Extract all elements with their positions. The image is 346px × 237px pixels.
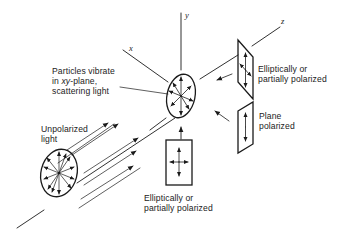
panel-bottom <box>166 140 192 185</box>
particle-ellipse <box>163 72 200 121</box>
unpolarized-label-line1: Unpolarized <box>41 124 88 134</box>
plane-polarized-label-line1: Plane <box>259 111 295 121</box>
axis-label-y: y <box>185 11 189 20</box>
unpolarized-label: Unpolarized light <box>41 124 88 144</box>
top-right-label-line1: Elliptically or <box>258 64 327 74</box>
plane-polarized-label-line2: polarized <box>259 121 295 131</box>
scatter-arrow-from-top-panel <box>217 74 232 80</box>
panel-top-right <box>238 40 253 99</box>
particles-label-line1: Particles vibrate <box>52 66 115 76</box>
x-axis <box>123 50 168 82</box>
panel-plane-polarized <box>238 102 253 153</box>
particles-label-line3: scattering light <box>52 86 115 96</box>
scatter-arrow-from-plane-panel <box>215 111 229 121</box>
particles-label-line2: in xy-plane, <box>52 76 115 86</box>
plane-polarized-label: Plane polarized <box>259 111 295 131</box>
bottom-label-line1: Elliptically or <box>144 193 213 203</box>
x-axis-lower <box>150 118 166 130</box>
particles-label: Particles vibrate in xy-plane, scatterin… <box>52 66 115 96</box>
particles-label-line2-italic: xy <box>61 76 70 86</box>
particle-leader-line <box>120 87 168 94</box>
axis-label-z: z <box>281 17 284 26</box>
particles-label-line2-suffix: -plane, <box>70 76 97 86</box>
unpolarized-label-line2: light <box>41 134 88 144</box>
bottom-label-line2: partially polarized <box>144 203 213 213</box>
top-right-polarization-label: Elliptically or partially polarized <box>258 64 327 84</box>
bottom-polarization-label: Elliptically or partially polarized <box>144 193 213 213</box>
particles-label-line2-prefix: in <box>52 76 61 86</box>
top-right-label-line2: partially polarized <box>258 74 327 84</box>
axis-label-x: x <box>129 44 133 53</box>
